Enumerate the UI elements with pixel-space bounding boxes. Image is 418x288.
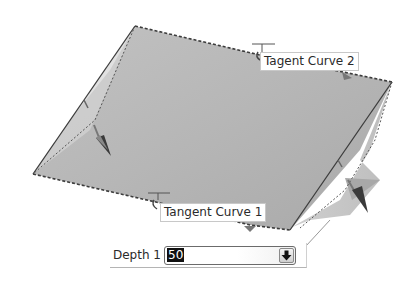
depth-label: Depth 1 — [113, 248, 161, 262]
down-arrow-icon — [281, 250, 292, 261]
depth-dropdown-button[interactable] — [279, 248, 294, 263]
edge-marker-bottom — [244, 226, 256, 232]
cad-viewport: Tagent Curve 2 Tangent Curve 1 Depth 1 5… — [0, 0, 418, 288]
callout-tangent-curve-2-label: Tagent Curve 2 — [264, 54, 355, 68]
callout-tangent-curve-2[interactable]: Tagent Curve 2 — [260, 52, 359, 71]
callout-tangent-curve-1[interactable]: Tangent Curve 1 — [160, 203, 266, 222]
callout-tangent-curve-1-label: Tangent Curve 1 — [164, 205, 262, 219]
depth-control: Depth 1 50 — [110, 243, 307, 268]
depth-value[interactable]: 50 — [167, 248, 184, 262]
depth-leader-line — [306, 220, 330, 246]
depth-input[interactable]: 50 — [164, 246, 296, 265]
